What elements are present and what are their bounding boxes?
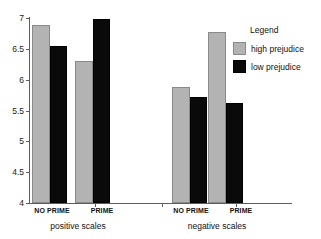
bar-positive-no-prime-low bbox=[50, 46, 67, 203]
bar-chart: 76.565.554.54 NO PRIME PRIME positive sc… bbox=[0, 0, 321, 239]
y-axis-tick-label: 4 bbox=[0, 199, 24, 208]
x-tick-mid bbox=[162, 203, 163, 207]
bar-positive-prime-high bbox=[75, 61, 93, 203]
group-label-positive: positive scales bbox=[27, 222, 129, 231]
y-axis-tick-label: 5 bbox=[0, 137, 24, 146]
y-axis-tick-label: 6.5 bbox=[0, 45, 24, 54]
legend-swatch-low-prejudice bbox=[233, 60, 246, 73]
bar-negative-prime-high bbox=[208, 32, 226, 203]
y-axis-tick-label: 6 bbox=[0, 76, 24, 85]
legend-swatch-high-prejudice bbox=[233, 42, 246, 55]
bar-negative-prime-low bbox=[226, 103, 243, 203]
legend-title: Legend bbox=[250, 25, 319, 35]
y-axis-tick-label: 5.5 bbox=[0, 107, 24, 116]
category-label-negative-no-prime: NO PRIME bbox=[165, 207, 217, 215]
y-axis-tick-label: 4.5 bbox=[0, 168, 24, 177]
category-label-positive-no-prime: NO PRIME bbox=[26, 207, 78, 215]
legend-label-low-prejudice: low prejudice bbox=[251, 62, 301, 72]
bar-negative-no-prime-low bbox=[190, 97, 207, 203]
category-label-negative-prime: PRIME bbox=[219, 207, 263, 215]
bar-negative-no-prime-high bbox=[172, 87, 190, 203]
legend: Legend high prejudice low prejudice bbox=[233, 25, 319, 78]
bar-positive-no-prime-high bbox=[32, 25, 50, 203]
group-label-negative: negative scales bbox=[166, 222, 268, 231]
legend-label-high-prejudice: high prejudice bbox=[251, 44, 304, 54]
legend-item-high-prejudice: high prejudice bbox=[233, 42, 319, 55]
bar-positive-prime-low bbox=[93, 19, 110, 203]
y-axis-tick-label: 7 bbox=[0, 14, 24, 23]
x-axis-line bbox=[29, 203, 292, 204]
category-label-positive-prime: PRIME bbox=[80, 207, 124, 215]
legend-item-low-prejudice: low prejudice bbox=[233, 60, 319, 73]
